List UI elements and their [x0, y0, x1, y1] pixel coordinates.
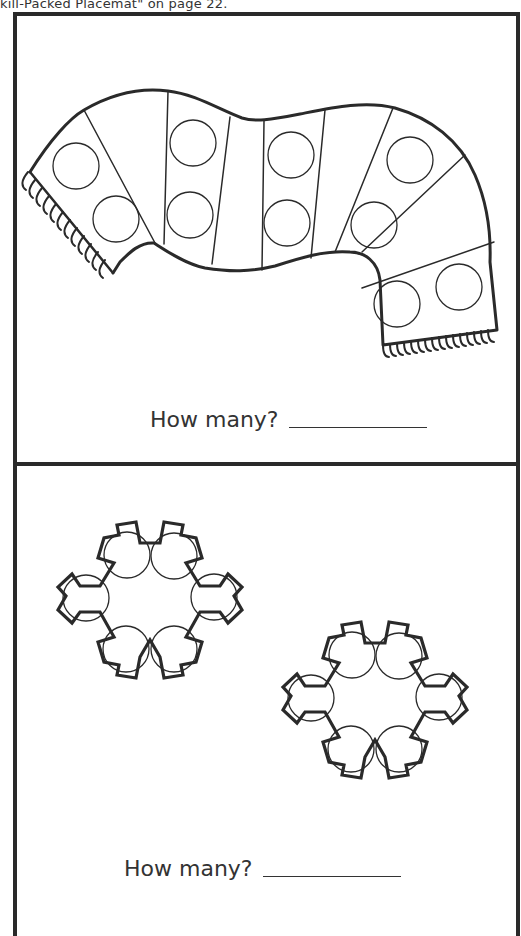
question-label: How many?: [124, 857, 253, 881]
snowflake-question: How many?: [124, 857, 401, 881]
snowflake-1: [58, 522, 242, 678]
snowflake-answer-field[interactable]: [263, 876, 401, 877]
snowflake-2: [283, 622, 467, 778]
